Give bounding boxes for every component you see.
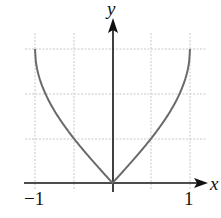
grid-lines [25,33,206,190]
plot-canvas: x y −1 1 [0,0,221,218]
y-axis-label: y [105,0,116,19]
x-tick-label-min: −1 [24,188,44,209]
x-axis-label: x [209,173,219,194]
x-tick-label-max: 1 [184,188,194,209]
